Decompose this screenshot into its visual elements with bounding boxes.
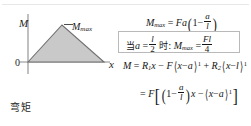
eq4-F: F <box>148 88 154 99</box>
boxed-result-numerator: Fl <box>202 35 212 44</box>
x-axis-label: x <box>109 59 114 70</box>
eq1-Fa: Fa <box>176 17 187 28</box>
eq1-fraction-a-over-l: al <box>204 12 211 32</box>
special-case-box: 当a =l2 时: Mmax =Fl4 <box>118 31 240 53</box>
boxed-M: M <box>174 40 182 51</box>
eq4-term-exponent: 1 <box>229 88 232 95</box>
when-label: 当 <box>126 41 135 51</box>
eq1-minus: − <box>198 17 204 28</box>
eq1-fraction-numerator: a <box>204 12 211 21</box>
boxed-half-numerator: l <box>149 35 156 44</box>
origin-label: 0 <box>15 58 20 68</box>
eq3-equals: = <box>134 60 140 71</box>
boxed-result-denominator: 4 <box>202 44 212 54</box>
eq3-x: x <box>151 60 155 71</box>
eq4-fraction-numerator: a <box>178 83 185 92</box>
boxed-M-subscript: max <box>182 44 193 51</box>
eq4-minus-2: − <box>198 88 204 99</box>
eq3-term1-a: a <box>188 60 193 71</box>
eq4-fraction-a-over-l: al <box>178 83 185 103</box>
peak-label-subscript: max <box>80 25 92 33</box>
peak-value-label: Mmax <box>72 21 92 33</box>
eq3-R2-subscript: 2 <box>218 64 221 71</box>
then-label: 时: <box>159 41 171 51</box>
eq3-plus: + <box>203 60 209 71</box>
eq4-term-a: a <box>219 88 224 99</box>
bending-moment-diagram: M x 0 Mmax <box>6 8 118 78</box>
moment-triangle <box>28 25 104 62</box>
special-case-equation: 当a =l2 时: Mmax =Fl4 <box>126 35 213 55</box>
eq3-term2-exponent: 1 <box>244 60 247 67</box>
boxed-half-denominator: 2 <box>149 44 156 54</box>
boxed-a: a <box>135 40 140 51</box>
y-axis-label: M <box>19 18 28 29</box>
eq3-M: M <box>123 60 131 71</box>
eq3-minus: − <box>158 60 164 71</box>
eq1-lhs-subscript: max <box>154 21 165 28</box>
boxed-equals-2: = <box>195 40 201 51</box>
figure-page: M x 0 Mmax 弯矩 Mmax = Fa(1−al) 当a =l2 时: … <box>0 0 251 126</box>
equation-maximum-moment: Mmax = Fa(1−al) <box>146 12 217 32</box>
figure-caption: 弯矩 <box>10 99 31 114</box>
top-divider <box>2 4 249 5</box>
boxed-equals-1: = <box>143 40 149 51</box>
eq3-term2-l: l <box>236 60 239 71</box>
boxed-fraction-l-over-2: l2 <box>149 35 156 55</box>
eq4-equals: = <box>140 88 146 99</box>
eq4-minus-1: − <box>171 88 177 99</box>
eq3-term1-exponent: 1 <box>198 60 201 67</box>
boxed-fraction-Fl-over-4: Fl4 <box>202 35 212 55</box>
eq3-F: F <box>166 60 172 71</box>
eq4-fraction-denominator: l <box>178 92 185 102</box>
eq4-x: x <box>191 88 195 99</box>
eq1-equals: = <box>168 17 174 28</box>
equation-general-moment: M = R1x − F⟨x−a⟩1 + R2⟨x−l⟩1 <box>123 60 247 71</box>
equation-simplified-moment: = F[(1−al)x −⟨x−a⟩1] <box>140 83 238 103</box>
